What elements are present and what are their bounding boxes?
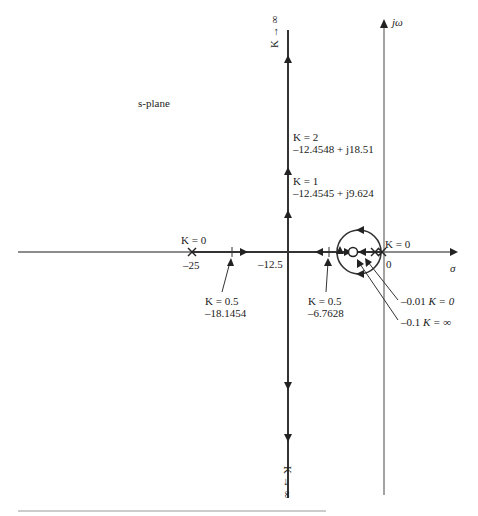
- k-inf-bottom-label: K → ∞: [282, 466, 294, 498]
- pole-001-label: –0.01 K = 0: [401, 295, 454, 307]
- k05-right-gain: K = 0.5: [308, 295, 341, 307]
- k05-right-value: –6.7628: [308, 307, 344, 319]
- real-axis-label: σ: [450, 262, 455, 274]
- plane-label: s-plane: [138, 97, 170, 109]
- k-inf-top-label: K → ∞: [268, 16, 280, 48]
- arrow-up-icon: [324, 258, 332, 266]
- k1-value: –12.4545 + j9.624: [293, 187, 374, 199]
- leader-line: [368, 262, 398, 300]
- origin-label: 0: [386, 258, 392, 270]
- arrow-left-icon: [358, 248, 366, 256]
- leader-line: [326, 262, 328, 292]
- imag-axis-arrow-icon: [380, 19, 388, 28]
- arrow-left-icon: [356, 270, 364, 278]
- k05-left-value: –18.1454: [205, 307, 246, 319]
- k2-value: –12.4548 + j18.51: [293, 143, 374, 155]
- leader-line: [222, 262, 230, 292]
- arrow-up-icon: [284, 210, 292, 218]
- pole-25-gain: K = 0: [181, 234, 206, 246]
- arrow-left-icon: [356, 226, 364, 234]
- arrow-icon: [357, 259, 364, 268]
- arrow-up-icon: [227, 258, 234, 266]
- arrow-up-icon: [284, 55, 292, 63]
- arrow-right-icon: [240, 248, 248, 256]
- pole-25-value: –25: [183, 259, 200, 271]
- k1-gain: K = 1: [293, 175, 318, 187]
- imag-axis-label: jω: [392, 16, 403, 28]
- arrow-down-icon: [284, 382, 292, 390]
- asymptote-value: –12.5: [258, 258, 283, 270]
- arrow-up-icon: [284, 167, 292, 175]
- arrow-left-icon: [315, 248, 323, 256]
- root-locus-plot: [0, 0, 478, 516]
- zero-marker-icon: [349, 248, 358, 257]
- pole-0-gain: K = 0: [385, 238, 410, 250]
- k2-gain: K = 2: [293, 131, 318, 143]
- real-axis-arrow-icon: [450, 248, 458, 256]
- arrow-down-icon: [284, 434, 292, 442]
- k05-left-gain: K = 0.5: [205, 295, 238, 307]
- zero-01-label: –0.1 K = ∞: [401, 316, 451, 328]
